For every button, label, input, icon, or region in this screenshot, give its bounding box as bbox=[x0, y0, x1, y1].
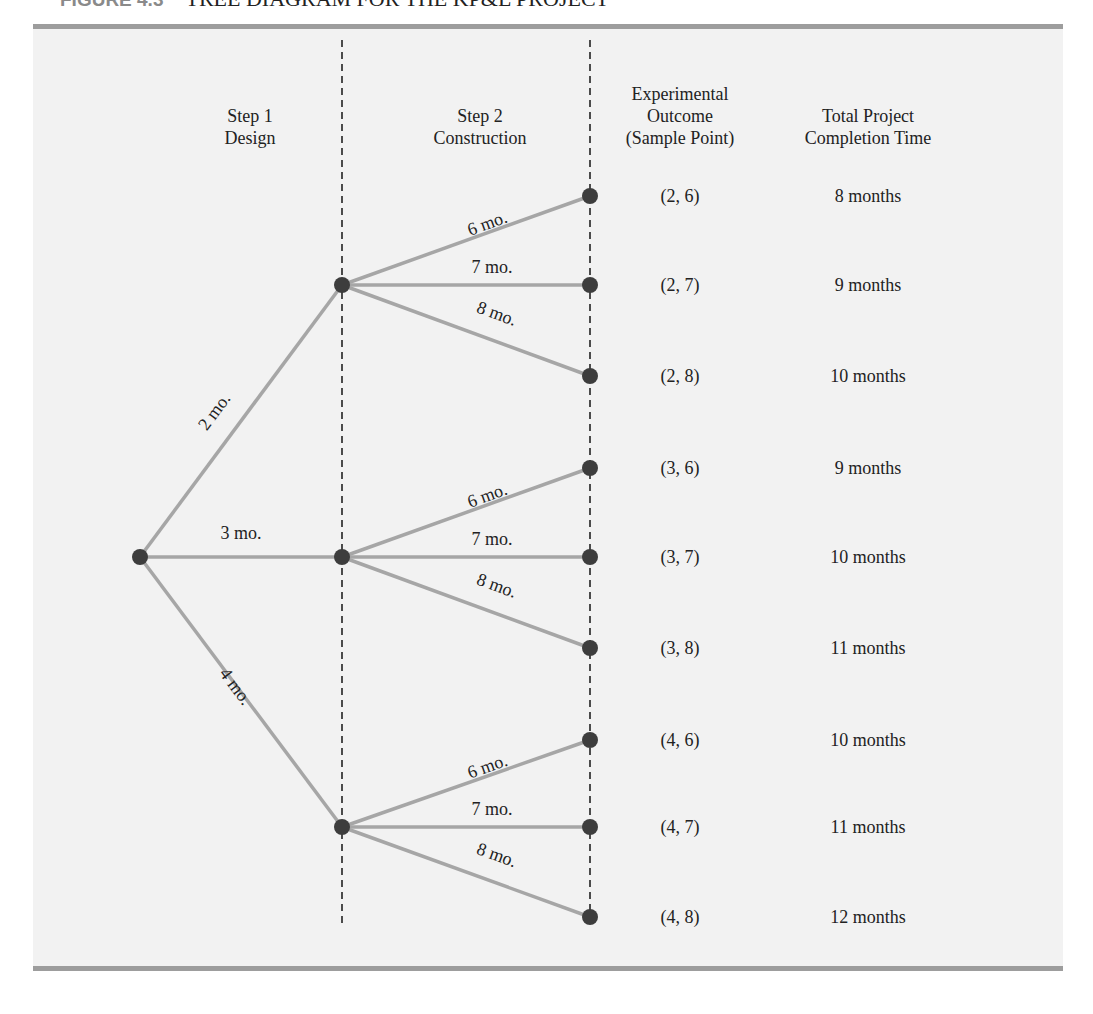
root-node bbox=[132, 549, 148, 565]
sample-point: (4, 7) bbox=[661, 817, 700, 838]
design-node bbox=[334, 549, 350, 565]
outcome-node bbox=[582, 732, 598, 748]
branch-construction-0-6 bbox=[342, 196, 590, 285]
outcome-node bbox=[582, 909, 598, 925]
completion-time: 9 months bbox=[835, 458, 902, 479]
tree-diagram: 2 mo.3 mo.4 mo.6 mo.7 mo.8 mo.6 mo.7 mo.… bbox=[0, 0, 1093, 1014]
sample-point: (3, 6) bbox=[661, 458, 700, 479]
outcome-node bbox=[582, 819, 598, 835]
label-construction-7: 7 mo. bbox=[471, 799, 512, 819]
outcome-node bbox=[582, 188, 598, 204]
outcome-node bbox=[582, 640, 598, 656]
sample-point: (3, 8) bbox=[661, 638, 700, 659]
completion-time: 8 months bbox=[835, 186, 902, 207]
completion-time: 10 months bbox=[830, 366, 906, 387]
sample-point: (2, 6) bbox=[661, 186, 700, 207]
label-construction-7: 7 mo. bbox=[471, 257, 512, 277]
sample-point: (4, 6) bbox=[661, 730, 700, 751]
label-construction-7: 7 mo. bbox=[471, 529, 512, 549]
label-construction-6: 6 mo. bbox=[465, 207, 510, 240]
sample-point: (2, 7) bbox=[661, 275, 700, 296]
completion-time: 9 months bbox=[835, 275, 902, 296]
branch-construction-2-8 bbox=[342, 827, 590, 917]
branch-construction-2-6 bbox=[342, 740, 590, 827]
label-construction-8: 8 mo. bbox=[474, 569, 519, 602]
sample-point: (4, 8) bbox=[661, 907, 700, 928]
outcome-node bbox=[582, 549, 598, 565]
branch-construction-1-8 bbox=[342, 557, 590, 648]
label-design-3: 3 mo. bbox=[220, 523, 261, 543]
completion-time: 12 months bbox=[830, 907, 906, 928]
design-node bbox=[334, 277, 350, 293]
sample-point: (3, 7) bbox=[661, 547, 700, 568]
branch-construction-0-8 bbox=[342, 285, 590, 376]
completion-time: 10 months bbox=[830, 730, 906, 751]
completion-time: 11 months bbox=[831, 817, 906, 838]
outcome-node bbox=[582, 368, 598, 384]
completion-time: 11 months bbox=[831, 638, 906, 659]
branch-design-2 bbox=[140, 285, 342, 557]
sample-point: (2, 8) bbox=[661, 366, 700, 387]
label-design-2: 2 mo. bbox=[194, 389, 235, 434]
branch-construction-1-6 bbox=[342, 468, 590, 557]
outcome-node bbox=[582, 460, 598, 476]
label-construction-8: 8 mo. bbox=[474, 838, 519, 871]
label-construction-8: 8 mo. bbox=[474, 297, 519, 330]
completion-time: 10 months bbox=[830, 547, 906, 568]
label-construction-6: 6 mo. bbox=[465, 479, 510, 512]
outcome-node bbox=[582, 277, 598, 293]
design-node bbox=[334, 819, 350, 835]
